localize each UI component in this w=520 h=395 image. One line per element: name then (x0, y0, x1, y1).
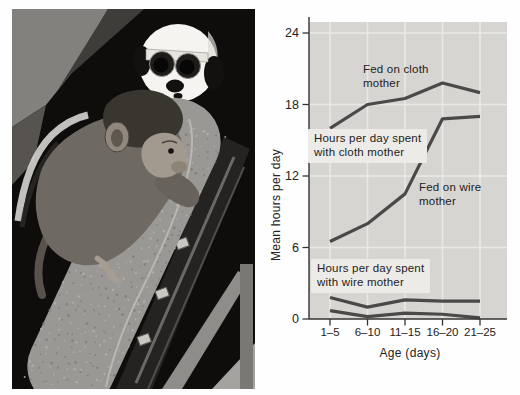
y-tick-label: 18 (285, 98, 299, 112)
annotation-hours-with-wire-mother: Hours per day spent with wire mother (311, 259, 430, 293)
annotation-hours-with-cloth-mother: Hours per day spent with cloth mother (308, 129, 427, 163)
y-tick-labels: 06121824 (285, 26, 299, 326)
figure-page: 06121824 1–56–1011–1516–2021–25 Mean hou… (0, 0, 520, 395)
y-tick-label: 12 (285, 169, 299, 183)
y-tick-label: 24 (285, 26, 299, 40)
x-axis-title: Age (days) (379, 346, 440, 360)
annotation-fed-on-cloth-mother: Fed on cloth mother (363, 63, 429, 90)
x-tick-labels: 1–56–1011–1516–2021–25 (320, 326, 496, 338)
x-tick-label: 6–10 (355, 326, 381, 338)
y-tick-label: 0 (292, 312, 299, 326)
y-tick-label: 6 (292, 241, 299, 255)
y-axis-title: Mean hours per day (269, 149, 283, 261)
x-tick-label: 21–25 (464, 326, 496, 338)
x-tick-label: 16–20 (427, 326, 459, 338)
x-tick-label: 11–15 (389, 326, 420, 338)
annotation-fed-on-wire-mother: Fed on wire mother (419, 181, 481, 208)
x-tick-label: 1–5 (320, 326, 339, 338)
